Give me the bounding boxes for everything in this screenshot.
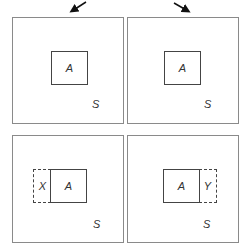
universal-set-label: S — [204, 99, 211, 110]
set-x-dashed-box: X — [33, 169, 51, 203]
set-a-label: A — [65, 181, 72, 192]
set-y-dashed-box: Y — [199, 169, 217, 203]
universal-set-label: S — [93, 219, 100, 230]
universal-set-label: S — [203, 219, 210, 230]
panel-bottom-left: X A S — [12, 135, 124, 243]
set-a-box: A — [51, 51, 88, 85]
set-a-label: A — [179, 63, 186, 74]
panel-top-right: A S — [127, 17, 239, 124]
set-a-box: A — [164, 51, 201, 85]
set-a-box: A — [50, 169, 87, 203]
panel-bottom-right: A Y S — [127, 135, 239, 243]
set-a-label: A — [178, 181, 185, 192]
set-y-label: Y — [204, 181, 211, 192]
universal-set-label: S — [92, 99, 99, 110]
panel-top-left: A S — [12, 17, 124, 124]
arrows-layer — [0, 0, 245, 16]
arrow-down-left-icon — [72, 2, 86, 11]
set-a-box: A — [163, 169, 200, 203]
set-a-label: A — [66, 63, 73, 74]
arrow-down-right-icon — [174, 3, 188, 11]
set-x-label: X — [39, 181, 46, 192]
